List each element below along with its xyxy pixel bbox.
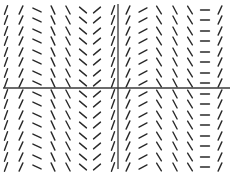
slope-segment bbox=[4, 132, 7, 140]
slope-segment bbox=[188, 58, 193, 66]
slope-segment bbox=[157, 121, 162, 129]
slope-segment bbox=[4, 37, 7, 45]
slope-segment bbox=[139, 29, 147, 33]
slope-segment bbox=[66, 111, 70, 119]
slope-segment bbox=[4, 6, 7, 14]
slope-segment bbox=[80, 154, 87, 160]
slope-segment bbox=[19, 111, 23, 119]
slope-segment bbox=[66, 16, 70, 24]
slope-segment bbox=[4, 163, 7, 171]
slope-segment bbox=[173, 69, 177, 77]
slope-segment bbox=[126, 153, 130, 161]
slope-segment bbox=[111, 111, 114, 119]
slope-segment bbox=[111, 48, 114, 56]
slope-segment bbox=[173, 111, 177, 119]
slope-segment bbox=[19, 79, 23, 87]
slope-segment bbox=[80, 70, 87, 76]
slope-segment bbox=[126, 69, 130, 77]
slope-segment bbox=[4, 153, 7, 161]
slope-segment bbox=[33, 8, 41, 12]
slope-segment bbox=[51, 153, 55, 161]
slope-segment bbox=[188, 16, 193, 24]
slope-segment bbox=[157, 16, 162, 24]
slope-segment bbox=[94, 101, 101, 107]
slope-segment bbox=[19, 37, 23, 45]
slope-segment bbox=[111, 37, 114, 45]
slope-segment bbox=[19, 27, 23, 35]
slope-segment bbox=[66, 48, 70, 56]
slope-segment bbox=[33, 71, 41, 75]
slope-segment bbox=[173, 79, 177, 87]
slope-segment bbox=[173, 6, 177, 14]
slope-segment bbox=[19, 6, 23, 14]
slope-segment bbox=[33, 155, 41, 159]
slope-segment bbox=[188, 153, 193, 161]
slope-segment bbox=[126, 121, 130, 129]
slope-segment bbox=[111, 6, 114, 14]
slope-segment bbox=[218, 142, 222, 150]
slope-segment bbox=[173, 58, 177, 66]
slope-segment bbox=[19, 153, 23, 161]
slope-segment bbox=[80, 38, 87, 44]
slope-segment bbox=[19, 100, 23, 108]
slope-segment bbox=[33, 39, 41, 43]
slope-segment bbox=[188, 121, 193, 129]
slope-segment bbox=[139, 18, 147, 22]
slope-segment bbox=[51, 132, 55, 140]
slope-segment bbox=[126, 111, 130, 119]
slope-segment bbox=[94, 154, 101, 160]
slope-segment bbox=[111, 90, 114, 98]
slope-segment bbox=[94, 59, 101, 65]
slope-segment bbox=[157, 132, 162, 140]
slope-segment bbox=[111, 153, 114, 161]
slope-segment bbox=[33, 123, 41, 127]
slope-segment bbox=[51, 121, 55, 129]
slope-segment bbox=[19, 132, 23, 140]
slope-segment bbox=[33, 144, 41, 148]
slope-segment bbox=[19, 142, 23, 150]
slope-segment bbox=[94, 91, 101, 97]
slope-segment bbox=[188, 132, 193, 140]
slope-segment bbox=[188, 69, 193, 77]
slope-segment bbox=[139, 39, 147, 43]
slope-segment bbox=[19, 90, 23, 98]
slope-segment bbox=[80, 28, 87, 34]
slope-segment bbox=[126, 100, 130, 108]
slope-segment bbox=[111, 58, 114, 66]
slope-segment bbox=[51, 163, 55, 171]
slope-segment bbox=[80, 143, 87, 149]
slope-segment bbox=[94, 133, 101, 139]
slope-segment bbox=[33, 81, 41, 85]
slope-segment bbox=[126, 37, 130, 45]
slope-segment bbox=[66, 142, 70, 150]
slope-segment bbox=[188, 6, 193, 14]
slope-segment bbox=[218, 100, 222, 108]
slope-segment bbox=[66, 58, 70, 66]
slope-segment bbox=[66, 69, 70, 77]
slope-segment bbox=[218, 79, 222, 87]
slope-segment bbox=[51, 90, 55, 98]
slope-segment bbox=[51, 48, 55, 56]
slope-segment bbox=[139, 134, 147, 138]
slope-segment bbox=[139, 71, 147, 75]
slope-segment bbox=[218, 37, 222, 45]
slope-segment bbox=[139, 165, 147, 169]
slope-segment bbox=[4, 16, 7, 24]
slope-segment bbox=[173, 48, 177, 56]
slope-segment bbox=[157, 111, 162, 119]
slope-segment bbox=[139, 92, 147, 96]
slope-segment bbox=[94, 49, 101, 55]
slope-segment bbox=[94, 112, 101, 118]
slope-segment bbox=[111, 142, 114, 150]
slope-segment bbox=[51, 6, 55, 14]
slope-segment bbox=[188, 111, 193, 119]
slope-segment bbox=[157, 58, 162, 66]
slope-segment bbox=[218, 6, 222, 14]
slope-segment bbox=[33, 92, 41, 96]
slope-segment bbox=[126, 58, 130, 66]
slope-segment bbox=[173, 121, 177, 129]
slope-segment bbox=[188, 37, 193, 45]
slope-segment bbox=[188, 79, 193, 87]
slope-segment bbox=[139, 50, 147, 54]
slope-segment bbox=[188, 90, 193, 98]
